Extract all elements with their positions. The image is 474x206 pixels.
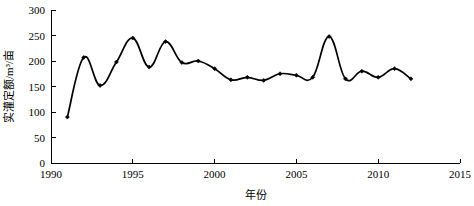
line-chart: 0501001502002503001990199520002005201020… bbox=[0, 0, 474, 206]
x-tick-label: 2000 bbox=[204, 168, 227, 180]
data-point-marker bbox=[278, 72, 282, 76]
chart-figure: 0501001502002503001990199520002005201020… bbox=[0, 0, 474, 206]
data-point-marker bbox=[245, 75, 249, 79]
y-tick-label: 300 bbox=[29, 4, 46, 16]
x-tick-label: 2005 bbox=[285, 168, 308, 180]
y-tick-label: 50 bbox=[34, 132, 46, 144]
data-point-marker bbox=[376, 75, 380, 79]
x-tick-label: 2010 bbox=[367, 168, 390, 180]
x-tick-label: 1990 bbox=[40, 168, 63, 180]
data-point-marker bbox=[294, 73, 298, 77]
data-point-marker bbox=[229, 78, 233, 82]
x-tick-label: 2015 bbox=[449, 168, 472, 180]
data-point-marker bbox=[360, 69, 364, 73]
y-tick-label: 100 bbox=[29, 106, 46, 118]
data-point-marker bbox=[196, 59, 200, 63]
y-tick-label: 200 bbox=[29, 55, 46, 67]
y-tick-label: 250 bbox=[29, 30, 46, 42]
x-tick-label: 1995 bbox=[122, 168, 145, 180]
data-point-marker bbox=[262, 78, 266, 82]
data-point-marker bbox=[65, 115, 69, 119]
x-axis-title: 年份 bbox=[245, 188, 267, 201]
y-axis-title: 实灌定额/m³/亩 bbox=[2, 50, 15, 123]
y-tick-label: 150 bbox=[29, 81, 46, 93]
data-point-marker bbox=[393, 67, 397, 71]
data-series-line bbox=[67, 37, 411, 118]
